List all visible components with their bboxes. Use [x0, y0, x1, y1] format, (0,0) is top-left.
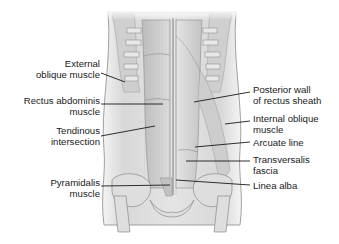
label-line: Transversalis [253, 154, 310, 165]
label-line: muscle [30, 188, 100, 199]
label-rectus-abdominis-muscle: Rectus abdominis muscle [10, 95, 100, 117]
label-line: fascia [253, 165, 310, 176]
label-internal-oblique-muscle: Internal oblique muscle [253, 113, 319, 135]
torso-shape [100, 10, 241, 232]
label-posterior-wall-of-rectus-sheath: Posterior wall of rectus sheath [253, 84, 321, 106]
label-line: Tendinous [30, 125, 100, 136]
label-line: Rectus abdominis [10, 95, 100, 106]
anatomy-diagram: External oblique muscle Rectus abdominis… [0, 0, 339, 244]
label-line: of rectus sheath [253, 95, 321, 106]
label-line: Posterior wall [253, 84, 321, 95]
label-line: External [30, 58, 100, 69]
label-line: intersection [30, 136, 100, 147]
label-linea-alba: Linea alba [253, 180, 297, 191]
label-pyramidalis-muscle: Pyramidalis muscle [30, 177, 100, 199]
label-tendinous-intersection: Tendinous intersection [30, 125, 100, 147]
label-line: Internal oblique [253, 113, 319, 124]
label-line: Arcuate line [253, 137, 304, 148]
label-transversalis-fascia: Transversalis fascia [253, 154, 310, 176]
label-line: muscle [253, 124, 319, 135]
label-line: Pyramidalis [30, 177, 100, 188]
label-arcuate-line: Arcuate line [253, 137, 304, 148]
label-external-oblique-muscle: External oblique muscle [30, 58, 100, 80]
label-line: Linea alba [253, 180, 297, 191]
label-line: oblique muscle [30, 69, 100, 80]
label-line: muscle [10, 106, 100, 117]
